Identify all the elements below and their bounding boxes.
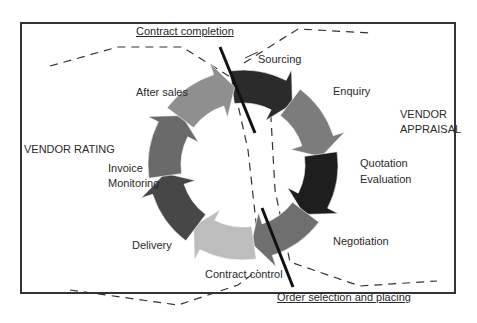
stage-delivery-label: Delivery <box>132 238 172 252</box>
stage-quotation-label: Quotation <box>360 156 408 170</box>
stage-monitoring-label: Monitoring <box>108 176 159 190</box>
stage-after-sales-label: After sales <box>136 85 188 99</box>
stage-sourcing-label: Sourcing <box>258 52 301 66</box>
vendor-rating-label: VENDOR RATING <box>24 142 115 156</box>
stage-evaluation-label: Evaluation <box>360 172 411 186</box>
vendor-appraisal-label-2: APPRAISAL <box>400 122 461 136</box>
stage-invoice-label: Invoice <box>108 161 143 175</box>
stage-enquiry-label: Enquiry <box>333 84 370 98</box>
stage-negotiation-label: Negotiation <box>333 234 389 248</box>
order-selection-label: Order selection and placing <box>277 290 411 304</box>
vendor-appraisal-label-1: VENDOR <box>400 107 447 121</box>
stage-contract-control-label: Contract control <box>205 267 283 281</box>
contract-completion-label: Contract completion <box>136 24 234 38</box>
